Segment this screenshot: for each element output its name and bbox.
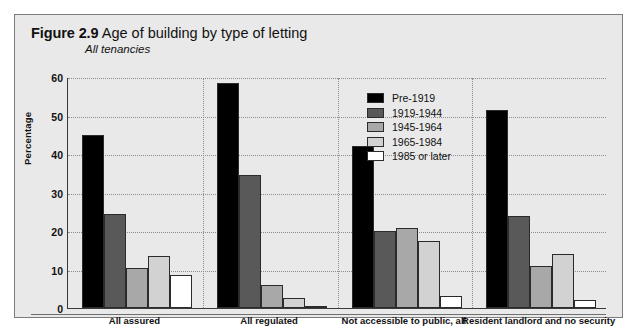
bar-group xyxy=(68,78,203,308)
x-axis-labels: All assuredAll regulatedNot accessible t… xyxy=(31,315,606,331)
legend-label: Pre-1919 xyxy=(392,92,435,104)
legend-swatch xyxy=(367,122,384,132)
figure-number: Figure 2.9 xyxy=(31,25,99,41)
x-axis-category-label: Not accessible to public, all xyxy=(342,315,467,326)
y-axis-tick-label: 30 xyxy=(29,188,63,200)
x-axis-category-label: All regulated xyxy=(240,315,298,326)
bar xyxy=(217,83,239,308)
legend-item: Pre-1919 xyxy=(367,91,451,106)
bar xyxy=(440,296,462,308)
legend-item: 1985 or later xyxy=(367,149,451,164)
bar xyxy=(261,285,283,308)
chart-legend: Pre-19191919-19441945-19641965-19841985 … xyxy=(367,91,451,164)
bar-group xyxy=(203,78,338,308)
figure-header: Figure 2.9 Age of building by type of le… xyxy=(31,25,307,57)
group-separator xyxy=(338,78,339,308)
bar xyxy=(170,275,192,308)
x-axis-category-label: Resident landlord and no security xyxy=(462,315,615,326)
bar-group xyxy=(472,78,607,308)
legend-item: 1965-1984 xyxy=(367,135,451,150)
figure-title-line: Figure 2.9 Age of building by type of le… xyxy=(31,25,307,42)
bar xyxy=(126,268,148,308)
legend-swatch xyxy=(367,93,384,103)
bar xyxy=(508,216,530,308)
legend-swatch xyxy=(367,137,384,147)
bar xyxy=(374,231,396,308)
bar xyxy=(352,146,374,308)
y-axis-tick-label: 20 xyxy=(29,226,63,238)
y-axis-tick-label: 60 xyxy=(29,72,63,84)
y-axis-tick-label: 50 xyxy=(29,111,63,123)
bar xyxy=(552,254,574,308)
bar xyxy=(104,214,126,308)
bar xyxy=(396,228,418,308)
bar xyxy=(148,256,170,308)
y-axis-tick-label: 40 xyxy=(29,149,63,161)
figure-subtitle: All tenancies xyxy=(85,42,307,57)
legend-swatch xyxy=(367,108,384,118)
y-axis-tick-label: 10 xyxy=(29,265,63,277)
group-separator xyxy=(472,78,473,308)
y-axis-ticks: 0102030405060 xyxy=(25,78,63,309)
plot-area xyxy=(67,78,606,309)
bar xyxy=(530,266,552,308)
legend-label: 1965-1984 xyxy=(392,136,442,148)
group-separator xyxy=(203,78,204,308)
bar xyxy=(486,110,508,308)
bar xyxy=(418,241,440,308)
bar xyxy=(574,300,596,308)
bar xyxy=(305,306,327,308)
legend-label: 1945-1964 xyxy=(392,121,442,133)
legend-swatch xyxy=(367,151,384,161)
bar xyxy=(283,298,305,308)
figure-panel: Figure 2.9 Age of building by type of le… xyxy=(14,14,623,318)
legend-label: 1985 or later xyxy=(392,150,451,162)
legend-item: 1945-1964 xyxy=(367,120,451,135)
page-title: Age of building by type of letting xyxy=(102,25,308,41)
legend-label: 1919-1944 xyxy=(392,107,442,119)
x-axis-category-label: All assured xyxy=(109,315,160,326)
bar xyxy=(239,175,261,308)
bar xyxy=(82,135,104,308)
legend-item: 1919-1944 xyxy=(367,106,451,121)
